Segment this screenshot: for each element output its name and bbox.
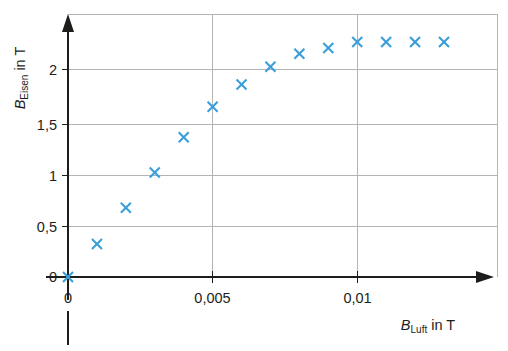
data-point [92, 239, 102, 249]
y-tick-label: 2 [49, 62, 57, 78]
x-axis [46, 271, 494, 283]
y-axis-title-unit: in T [12, 47, 28, 71]
chart-figure: 0 0,5 1 1,5 2 0 0,005 0,01 BLuft in T BE… [0, 0, 508, 351]
x-axis-title: BLuft in T [401, 317, 455, 335]
data-point [381, 37, 391, 47]
y-axis-title-sub: Eisen [19, 75, 30, 100]
x-tick-labels: 0 0,005 0,01 [64, 290, 372, 306]
data-point [121, 203, 131, 213]
x-axis-title-unit: in T [431, 317, 455, 333]
y-tick-label: 1 [49, 168, 57, 184]
x-tick-label: 0 [64, 290, 72, 306]
data-point-group [63, 37, 449, 282]
plot-frame [68, 15, 498, 278]
x-axis-title-sub: Luft [411, 324, 428, 335]
gridlines-vertical [213, 15, 358, 278]
y-tick-labels: 0 0,5 1 1,5 2 [37, 62, 57, 285]
data-point [323, 43, 333, 53]
gridlines-horizontal [68, 70, 498, 227]
data-point [439, 37, 449, 47]
scatter-plot-svg: 0 0,5 1 1,5 2 0 0,005 0,01 BLuft in T BE… [0, 0, 508, 351]
data-point [265, 62, 275, 72]
data-point [179, 132, 189, 142]
y-axis-title-var: B [12, 99, 28, 109]
data-point [237, 79, 247, 89]
y-tick-label: 0,5 [37, 219, 57, 235]
x-tick-label: 0,01 [343, 290, 371, 306]
x-tick-label: 0,005 [194, 290, 230, 306]
data-point [294, 49, 304, 59]
y-tick-label: 1,5 [37, 117, 57, 133]
y-axis-title: BEisen in T [12, 47, 30, 110]
data-point [410, 37, 420, 47]
x-axis-title-var: B [401, 317, 411, 333]
y-tick-label: 0 [49, 269, 57, 285]
